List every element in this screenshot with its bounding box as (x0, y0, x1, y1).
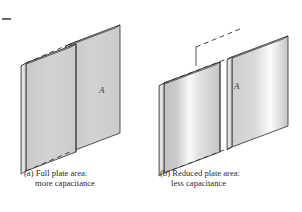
panel-b-caption: (b) Reduced plate area: less capacitance (160, 168, 240, 189)
panel-b-caption-text1: Reduced plate area: (172, 168, 240, 178)
panel-a-diagram (21, 25, 120, 174)
panel-b-diagram (159, 29, 288, 176)
panel-b-rear-plate (227, 36, 288, 150)
panel-a-caption-line1: (a) Full plate area: (24, 168, 87, 178)
panel-b-caption-line2: less capacitance (160, 178, 240, 188)
panel-b-dash-top-outer (196, 29, 240, 47)
rear-plate-side-edge (227, 57, 232, 150)
panel-b-caption-line1: (b) Reduced plate area: (160, 168, 240, 178)
rear-plate-face (70, 25, 120, 152)
panel-b-front-plate (159, 62, 220, 176)
front-plate-face (164, 62, 220, 173)
panel-a-caption-line2: more capacitance (24, 178, 95, 188)
front-plate-side-edge (21, 63, 26, 174)
rear-plate-face (232, 36, 288, 147)
panel-a-caption-text1: Full plate area: (36, 168, 88, 178)
panel-a-caption-prefix: (a) (24, 168, 34, 178)
front-plate-side-edge (159, 83, 164, 176)
front-plate-face (26, 44, 76, 171)
panel-a-caption: (a) Full plate area: more capacitance (24, 168, 95, 189)
panel-b-caption-prefix: (b) (160, 168, 170, 178)
panel-b-area-label: A (234, 81, 240, 91)
capacitor-plate-area-figure: A A (a) Full plate area: more capacitanc… (0, 0, 302, 212)
panel-a-front-plate (21, 44, 76, 174)
panel-a-area-label: A (99, 85, 105, 95)
